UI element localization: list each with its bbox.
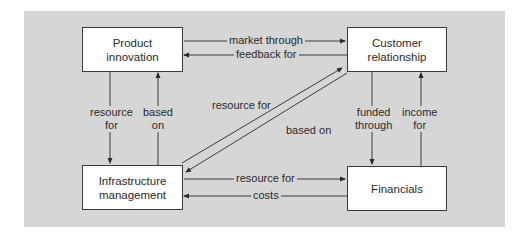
node-label: management [99, 188, 167, 202]
edge-label-market-through: market through [227, 34, 305, 47]
label-line: for [105, 119, 118, 131]
node-label: Product [106, 36, 158, 50]
node-customer-relationship: Customer relationship [347, 27, 447, 72]
label-line: income [402, 106, 437, 118]
node-financials: Financials [347, 166, 447, 211]
edge-label-resource-for-vertical: resource for [88, 106, 135, 132]
node-label: Financials [371, 182, 423, 196]
edge-label-funded-through: funded through [353, 106, 394, 132]
label-line: on [152, 119, 164, 131]
arrow-resource-for-diagonal [182, 68, 342, 163]
edge-label-costs: costs [251, 189, 281, 202]
label-line: funded [357, 106, 391, 118]
node-label: relationship [368, 50, 427, 64]
edge-label-resource-for-diagonal: resource for [210, 99, 273, 112]
edge-label-based-on-diagonal: based on [284, 124, 333, 137]
node-label: innovation [106, 50, 158, 64]
node-label: Customer [368, 36, 427, 50]
edge-label-based-on-vertical: based on [141, 106, 175, 132]
edge-label-resource-for-bottom: resource for [234, 172, 297, 185]
node-product-innovation: Product innovation [82, 27, 183, 72]
node-infrastructure-management: Infrastructure management [82, 165, 183, 210]
node-label: Infrastructure [99, 174, 167, 188]
label-line: for [413, 119, 426, 131]
label-line: through [355, 119, 392, 131]
edge-label-income-for: income for [400, 106, 439, 132]
label-line: resource [90, 106, 133, 118]
edge-label-feedback-for: feedback for [234, 48, 299, 61]
label-line: based [143, 106, 173, 118]
arrow-based-on-diagonal [186, 73, 347, 172]
